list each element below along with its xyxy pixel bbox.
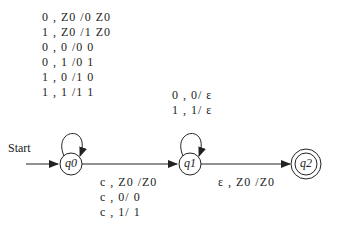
transition-label-q0-loop: 0 , Z0 /0 Z0 1 , Z0 /1 Z0 0 , 0 /0 0 0 ,… [42, 10, 111, 100]
transition-label-q1-q2: ε , Z0 /Z0 [218, 175, 275, 190]
transition-label-q1-loop: 0 , 0/ ε 1 , 1/ ε [172, 88, 212, 118]
state-label-q2: q2 [294, 156, 318, 171]
transition-label-q0-q1: c , Z0 /Z0 c , 0/ 0 c , 1/ 1 [100, 175, 157, 220]
state-label-q1: q1 [178, 156, 202, 171]
state-label-q0: q0 [59, 156, 83, 171]
start-label: Start [8, 141, 31, 156]
